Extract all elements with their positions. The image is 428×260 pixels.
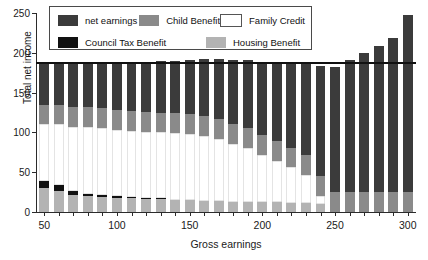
- bar-segment: [39, 188, 49, 212]
- y-tick-label: 200: [13, 47, 30, 58]
- bar-segment: [316, 196, 326, 204]
- y-tick-label: 0: [24, 207, 30, 218]
- x-axis-title: Gross earnings: [37, 238, 415, 250]
- legend-label-housing-benefit: Housing Benefit: [233, 37, 300, 48]
- bar: [359, 13, 369, 212]
- bar-segment: [68, 195, 78, 213]
- bar: [316, 13, 326, 212]
- bar-segment: [199, 136, 209, 201]
- legend-row-2: Council Tax Benefit Housing Benefit: [58, 34, 305, 51]
- bar-segment: [54, 185, 64, 191]
- x-minor-tick: [335, 212, 336, 216]
- bar-segment: [185, 134, 195, 200]
- x-minor-tick: [190, 212, 191, 216]
- bar-segment: [301, 64, 311, 155]
- bar-segment: [141, 132, 151, 199]
- bar-segment: [286, 203, 296, 212]
- reference-line: [36, 62, 416, 64]
- bar-segment: [54, 124, 64, 184]
- x-tick-label: 250: [326, 219, 344, 231]
- bar-segment: [39, 62, 49, 104]
- y-tick-label: 50: [19, 167, 30, 178]
- x-minor-tick: [102, 212, 103, 216]
- bar-segment: [39, 105, 49, 125]
- bar-segment: [359, 53, 369, 192]
- x-minor-tick: [393, 212, 394, 216]
- bar: [345, 13, 355, 212]
- bar-segment: [141, 198, 151, 199]
- bar-segment: [112, 198, 122, 212]
- legend-item-family-credit: Family Credit: [220, 14, 305, 27]
- bar-segment: [83, 194, 93, 196]
- bar-segment: [97, 195, 107, 197]
- bar-segment: [127, 62, 137, 111]
- bar-segment: [97, 197, 107, 212]
- bar-segment: [228, 124, 238, 144]
- bar-segment: [141, 112, 151, 132]
- bar-segment: [170, 113, 180, 133]
- legend-item-child-benefit: Child Benefit: [139, 15, 220, 26]
- y-tick-label: 250: [13, 8, 30, 19]
- chart-legend: net earnings Child Benefit Family Credit…: [49, 6, 312, 50]
- bar-segment: [199, 116, 209, 136]
- x-minor-tick: [277, 212, 278, 216]
- bar-segment: [156, 61, 166, 113]
- x-minor-tick: [306, 212, 307, 216]
- bar-segment: [112, 62, 122, 110]
- bar-segment: [54, 62, 64, 104]
- legend-label-child-benefit: Child Benefit: [166, 15, 220, 26]
- legend-swatch-council-tax-benefit: [58, 37, 78, 48]
- bar-segment: [68, 127, 78, 191]
- bar-segment: [243, 60, 253, 128]
- legend-item-housing-benefit: Housing Benefit: [206, 37, 300, 48]
- bar-segment: [403, 15, 413, 192]
- legend-item-council-tax-benefit: Council Tax Benefit: [58, 37, 206, 48]
- bar-segment: [127, 131, 137, 197]
- bar-segment: [316, 204, 326, 212]
- bar-segment: [243, 128, 253, 148]
- x-minor-tick: [117, 212, 118, 216]
- bar-segment: [214, 139, 224, 201]
- bar-segment: [112, 196, 122, 198]
- x-minor-tick: [379, 212, 380, 216]
- x-minor-tick: [408, 212, 409, 216]
- bar-segment: [286, 148, 296, 168]
- bar-segment: [170, 133, 180, 200]
- x-minor-tick: [364, 212, 365, 216]
- bar-segment: [185, 60, 195, 114]
- x-tick-label: 150: [181, 219, 199, 231]
- bar-segment: [228, 202, 238, 212]
- x-tick-label: 100: [108, 219, 126, 231]
- bar-segment: [199, 201, 209, 212]
- x-minor-tick: [291, 212, 292, 216]
- bar-segment: [156, 198, 166, 199]
- bar-segment: [228, 144, 238, 202]
- x-minor-tick: [73, 212, 74, 216]
- bar-segment: [243, 148, 253, 201]
- x-minor-tick: [219, 212, 220, 216]
- x-minor-tick: [262, 212, 263, 216]
- bar-segment: [68, 191, 78, 195]
- x-minor-tick: [132, 212, 133, 216]
- bar-segment: [185, 200, 195, 212]
- bar: [388, 13, 398, 212]
- legend-swatch-child-benefit: [139, 15, 159, 26]
- x-minor-tick: [146, 212, 147, 216]
- bar-segment: [257, 202, 267, 212]
- bar-segment: [156, 113, 166, 133]
- bar-segment: [185, 114, 195, 134]
- bar-segment: [388, 192, 398, 212]
- x-axis-line: [36, 212, 416, 213]
- x-minor-tick: [233, 212, 234, 216]
- legend-swatch-housing-benefit: [206, 37, 226, 48]
- bar-segment: [301, 155, 311, 175]
- y-tick-label: 100: [13, 127, 30, 138]
- bar-segment: [141, 62, 151, 112]
- bar-segment: [359, 192, 369, 212]
- bar-segment: [403, 192, 413, 212]
- bar-segment: [374, 46, 384, 192]
- bar-segment: [127, 198, 137, 212]
- bar-segment: [83, 62, 93, 107]
- bar-segment: [127, 111, 137, 131]
- bar: [330, 13, 340, 212]
